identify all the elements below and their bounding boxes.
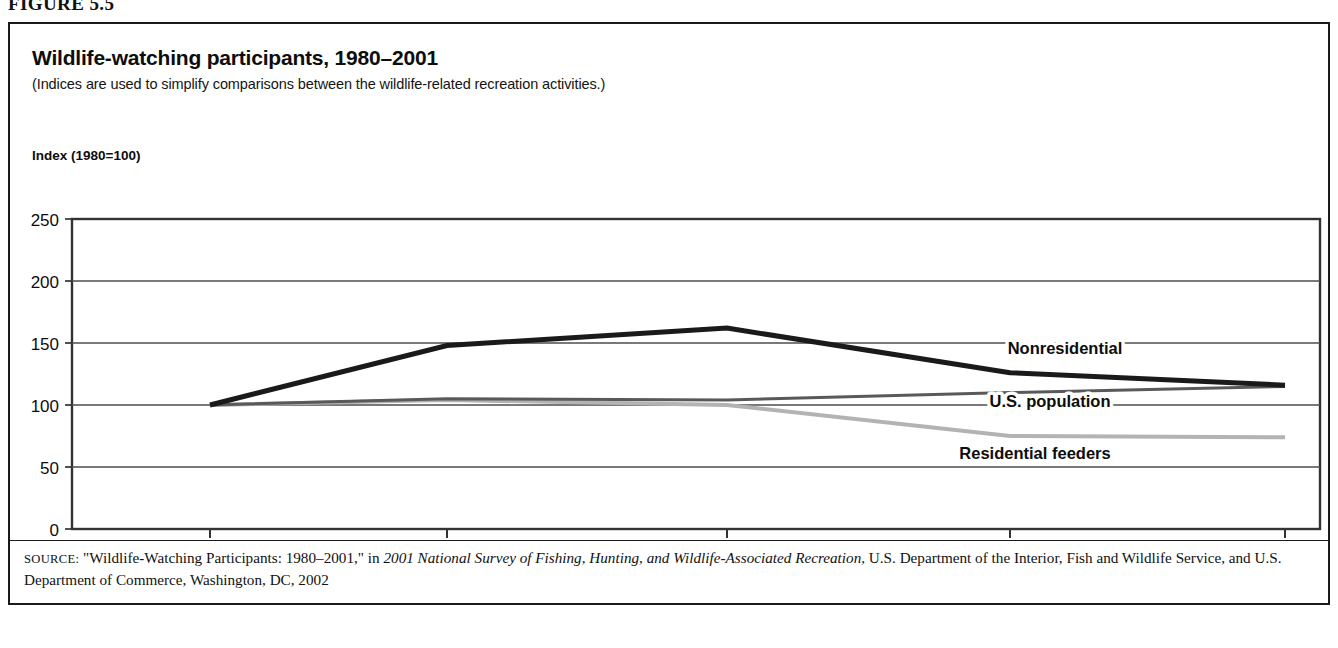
y-axis-tick-label: 150 (31, 335, 59, 354)
figure-container: Wildlife-watching participants, 1980–200… (8, 22, 1330, 605)
series-label-u-s-population: U.S. population (990, 392, 1111, 410)
series-label-nonresidential: Nonresidential (1008, 339, 1123, 357)
plot-frame (72, 219, 1320, 529)
y-axis-tick-label: 100 (31, 397, 59, 416)
source-note: SOURCE: "Wildlife-Watching Participants:… (24, 548, 1314, 590)
figure-page: FIGURE 5.5 Wildlife-watching participant… (0, 0, 1338, 648)
source-divider (10, 540, 1328, 541)
series-label-residential-feeders: Residential feeders (959, 444, 1110, 462)
figure-number-label: FIGURE 5.5 (8, 0, 114, 15)
source-text-part-1: "Wildlife-Watching Participants: 1980–20… (79, 549, 383, 566)
line-chart: 050100150200250198019851990/199119962001… (10, 24, 1332, 544)
y-axis-tick-label: 50 (40, 459, 59, 478)
y-axis-tick-label: 250 (31, 211, 59, 230)
source-publication-title: 2001 National Survey of Fishing, Hunting… (383, 549, 865, 566)
chart-plot-area: 050100150200250198019851990/199119962001… (10, 24, 1332, 544)
y-axis-tick-label: 200 (31, 273, 59, 292)
y-axis-tick-label: 0 (50, 521, 59, 540)
source-prefix: SOURCE: (24, 552, 79, 566)
